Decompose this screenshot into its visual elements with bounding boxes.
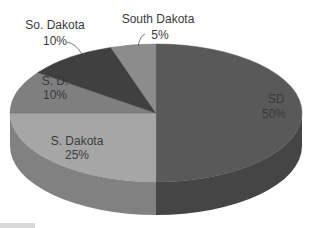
label-south-dakota-name: South Dakota [122,12,195,26]
pie-chart: SD 50% S. Dakota 25% S. D. 10% So. Dakot… [0,0,313,228]
label-south-dakota-pct: 5% [151,28,169,42]
label-so-dakota-pct: 10% [43,34,67,48]
label-s-d-name: S. D. [42,74,69,88]
label-s-dakota-pct: 25% [65,148,89,162]
label-s-d-pct: 10% [43,88,67,102]
leader-line-so-dakota [67,42,82,54]
label-s-dakota-name: S. Dakota [51,134,104,148]
label-sd-name: SD [268,92,285,106]
pie-top-faces [10,44,302,182]
pie-chart-svg: SD 50% S. Dakota 25% S. D. 10% So. Dakot… [0,0,313,228]
label-so-dakota-name: So. Dakota [25,18,85,32]
label-sd-pct: 50% [262,107,286,121]
corner-gray-bar [0,223,35,228]
